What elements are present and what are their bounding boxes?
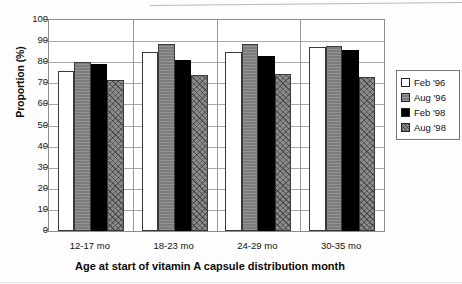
x-tick-label: 18-23 mo [129,240,219,251]
x-tick-label: 30-35 mo [296,240,386,251]
bar [191,75,208,231]
bar [142,52,159,231]
legend-item-label: Aug '96 [414,92,446,103]
bar [225,52,242,231]
bar [58,71,75,231]
group-separator [300,20,301,231]
x-tick-label: 24-29 mo [212,240,302,251]
legend-item-label: Feb '98 [414,107,445,118]
bar [309,47,326,231]
legend-swatch [401,78,410,87]
legend-swatch [401,123,410,132]
legend-item: Aug '96 [401,90,456,105]
bar [258,56,275,231]
bar [74,62,91,231]
legend-item-label: Aug '98 [414,122,446,133]
legend: Feb '96Aug '96Feb '98Aug '98 [396,70,460,140]
bar [242,44,259,231]
legend-item: Feb '98 [401,105,456,120]
bar [175,60,192,231]
bar [359,77,376,231]
group-separator [217,20,218,231]
x-tick-label: 12-17 mo [45,240,135,251]
scan-artifact-line-bottom [0,282,462,283]
plot-area [48,19,385,232]
legend-item: Feb '96 [401,75,456,90]
legend-item: Aug '98 [401,120,456,135]
scan-artifact-line [150,2,462,6]
bar [91,64,108,231]
legend-swatch [401,93,410,102]
bar [326,46,343,231]
bar [275,74,292,231]
legend-item-label: Feb '96 [414,77,445,88]
bar-chart-figure: Proportion (%) 0102030405060708090100 12… [0,0,462,284]
x-axis-title: Age at start of vitamin A capsule distri… [0,260,420,272]
bar [158,44,175,231]
group-separator [133,20,134,231]
legend-swatch [401,108,410,117]
bar [342,50,359,231]
bar [107,80,124,231]
